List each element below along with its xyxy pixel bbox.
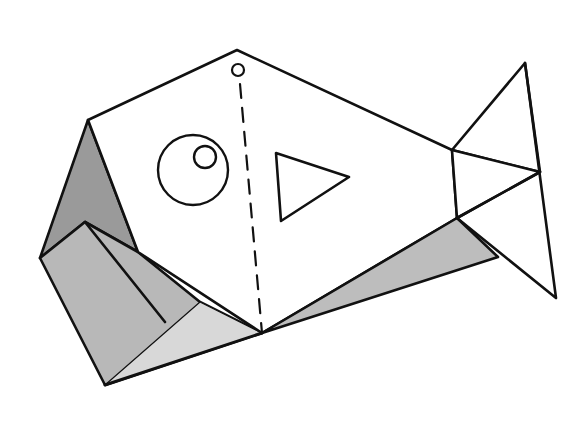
origami-fish-diagram: Origami fish diagram bbox=[0, 0, 565, 432]
hanging-hole bbox=[232, 64, 244, 76]
